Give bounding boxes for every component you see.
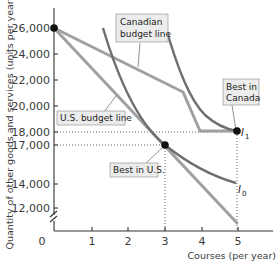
canadian-callout-line2: budget line (120, 29, 171, 39)
x-label-1: 1 (89, 235, 96, 248)
x-label-4: 4 (199, 235, 206, 248)
svg-text:I: I (241, 127, 244, 138)
y-tick-labels: 26,000 24,000 22,000 20,000 18,000 17,00… (12, 22, 51, 215)
us-callout-text: U.S. budget line (60, 113, 132, 123)
point-best-in-canada (233, 127, 241, 135)
indifference-curve-i0 (103, 28, 236, 183)
y-label-14000: 14,000 (12, 178, 51, 191)
y-label-17000: 17,000 (12, 139, 51, 152)
y-label-18000: 18,000 (12, 126, 51, 139)
svg-text:I: I (238, 184, 241, 195)
callout-canadian-budget-line: Canadian budget line (116, 14, 171, 67)
x-label-3: 3 (162, 235, 169, 248)
label-i0: I 0 (238, 184, 246, 198)
label-i1: I 1 (241, 127, 249, 141)
svg-text:1: 1 (245, 133, 249, 141)
point-endowment (50, 24, 58, 32)
best-canada-line2: Canada (226, 93, 260, 103)
best-us-text: Best in U.S. (113, 165, 165, 175)
y-label-22000: 22,000 (12, 74, 51, 87)
x-label-5: 5 (235, 235, 242, 248)
x-axis-title: Courses (per year) (187, 250, 276, 261)
svg-text:0: 0 (242, 190, 246, 198)
x-tick-labels: 0 1 2 3 4 5 (39, 235, 242, 248)
chart: 26,000 24,000 22,000 20,000 18,000 17,00… (0, 0, 279, 266)
point-best-in-us (161, 141, 169, 149)
y-label-20000: 20,000 (12, 100, 51, 113)
y-label-24000: 24,000 (12, 48, 51, 61)
y-axis-title: Quantity of other goods and services (un… (4, 0, 15, 249)
indifference-curve-i1 (165, 25, 237, 131)
y-label-26000: 26,000 (12, 22, 51, 35)
x-label-0: 0 (39, 235, 46, 248)
callout-best-in-us: Best in U.S. (110, 148, 165, 177)
guide-lines (54, 132, 237, 231)
canadian-callout-line1: Canadian (120, 17, 162, 27)
best-canada-line1: Best in (226, 82, 257, 92)
x-label-2: 2 (125, 235, 132, 248)
y-label-12000: 12,000 (12, 202, 51, 215)
callout-best-in-canada: Best in Canada (223, 79, 260, 130)
